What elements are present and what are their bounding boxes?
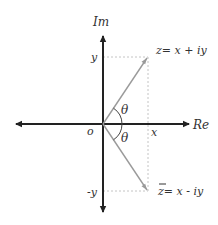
angle-label-lower: θ bbox=[121, 131, 129, 145]
arrowhead-z-conjugate-icon bbox=[142, 184, 148, 190]
z-label: z= x + iy bbox=[155, 44, 207, 57]
real-axis-label: Re bbox=[192, 118, 209, 132]
origin-label: o bbox=[87, 125, 94, 138]
arrowhead-z-icon bbox=[142, 58, 148, 64]
neg-y-tick-label: -y bbox=[87, 186, 98, 199]
z-conjugate-label: z= x - iy bbox=[157, 185, 204, 198]
x-tick-label: x bbox=[151, 126, 158, 139]
argand-diagram: Im Re o x y -y θ θ z= x + iy z= x - iy bbox=[0, 0, 218, 225]
y-tick-label: y bbox=[90, 51, 98, 64]
angle-label-upper: θ bbox=[121, 103, 129, 117]
imag-axis-label: Im bbox=[92, 15, 109, 29]
